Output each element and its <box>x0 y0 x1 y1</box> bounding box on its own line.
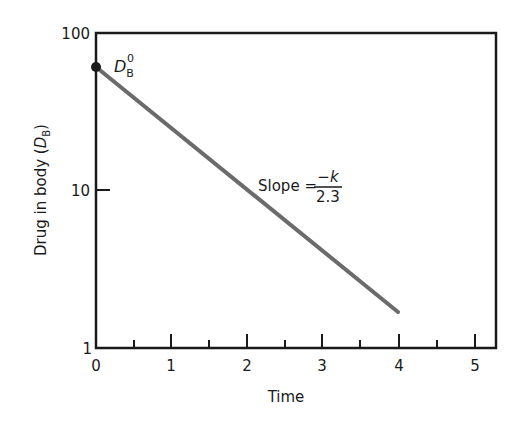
x-tick-label-0: 0 <box>91 357 101 375</box>
svg-text:Drug in body (DB): Drug in body (DB) <box>32 124 52 256</box>
intercept-label: DB0 <box>114 52 134 80</box>
intercept-label-sub: B <box>126 67 134 80</box>
intercept-label-sup: 0 <box>127 52 134 65</box>
x-ticks <box>134 334 475 348</box>
x-axis-title: Time <box>267 388 305 406</box>
x-tick-label-4: 4 <box>394 357 404 375</box>
y-tick-label-1: 1 <box>82 340 92 358</box>
x-tick-label-5: 5 <box>470 357 480 375</box>
y-tick-label-10: 10 <box>71 182 90 200</box>
elimination-line <box>96 67 398 312</box>
y-tick-label-100: 100 <box>61 25 90 43</box>
intercept-point <box>91 62 101 72</box>
intercept-label-main: D <box>114 57 126 76</box>
x-tick-label-2: 2 <box>242 357 252 375</box>
chart-canvas: 100 10 1 0 1 2 3 4 5 Time Drug in body (… <box>0 0 527 424</box>
slope-label: Slope = <box>258 177 317 195</box>
y-axis-title-close: ) <box>32 124 50 130</box>
y-axis-title: Drug in body (DB) <box>32 124 52 256</box>
slope-denominator: 2.3 <box>316 188 340 206</box>
x-tick-label-3: 3 <box>317 357 327 375</box>
y-axis-title-main: Drug in body ( <box>32 148 50 256</box>
slope-numerator: −k <box>317 168 340 186</box>
x-tick-label-1: 1 <box>166 357 176 375</box>
y-axis-title-var: D <box>32 137 50 149</box>
